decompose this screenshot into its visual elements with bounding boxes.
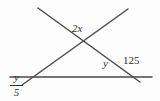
fraction-numerator: y [9, 72, 24, 84]
fraction-denominator: 5 [9, 87, 24, 99]
exterior-angle-label: 125 [123, 55, 140, 66]
fraction-angle-label: y 5 [9, 72, 24, 98]
descending-transversal-line [38, 8, 140, 82]
interior-angle-label: y [103, 58, 108, 69]
apex-angle-label: 2x [72, 23, 82, 34]
geometry-canvas [0, 0, 160, 101]
geometry-diagram: 2x y 125 y 5 [0, 0, 160, 101]
ascending-transversal-line [22, 9, 128, 85]
